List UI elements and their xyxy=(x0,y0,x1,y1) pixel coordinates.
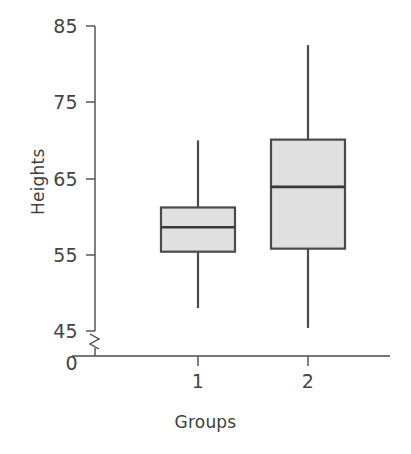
boxplot-figure: 85 75 65 55 45 0 1 2 Heights Groups xyxy=(0,0,411,454)
boxplot-group-2 xyxy=(271,45,345,328)
x-axis-title: Groups xyxy=(0,412,411,432)
y-tick-label-55: 55 xyxy=(38,244,78,266)
y-tick-label-45: 45 xyxy=(38,320,78,342)
y-tick-label-0: 0 xyxy=(38,352,78,374)
x-tick-label-2: 2 xyxy=(288,370,328,392)
x-tick-label-1: 1 xyxy=(178,370,218,392)
box-2 xyxy=(271,140,345,249)
axis-break-icon xyxy=(90,334,99,349)
y-tick-label-85: 85 xyxy=(38,15,78,37)
y-tick-label-75: 75 xyxy=(38,91,78,113)
box-1 xyxy=(161,207,235,251)
y-axis-title: Heights xyxy=(28,149,48,215)
boxplot-group-1 xyxy=(161,140,235,308)
